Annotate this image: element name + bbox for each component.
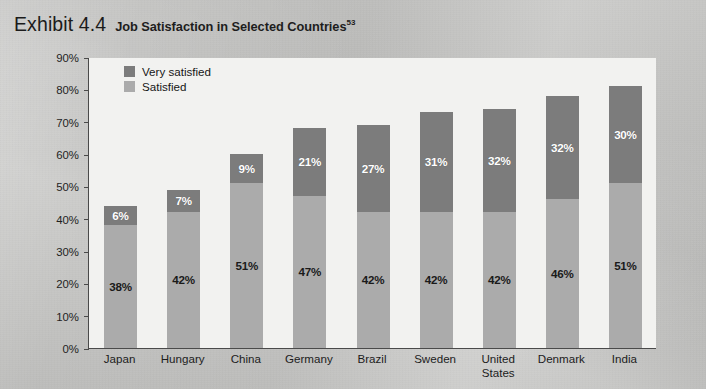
bar-value-label-very-satisfied: 7% bbox=[175, 195, 191, 207]
y-axis-tick-label: 50% bbox=[52, 181, 84, 193]
footnote-marker: 53 bbox=[347, 18, 356, 27]
y-axis-tick: 70% bbox=[52, 117, 89, 129]
bar-segment-very-satisfied[interactable]: 9% bbox=[230, 154, 263, 183]
bar-segment-satisfied[interactable]: 51% bbox=[609, 183, 642, 348]
chart-plot-frame: Very satisfied Satisfied 90%80%70%60%50%… bbox=[88, 58, 656, 349]
bar-segment-very-satisfied[interactable]: 32% bbox=[546, 96, 579, 199]
exhibit-title-text: Job Satisfaction in Selected Countries53 bbox=[115, 17, 355, 35]
y-axis-tick: 80% bbox=[52, 84, 89, 96]
bar-segment-very-satisfied[interactable]: 21% bbox=[293, 128, 326, 196]
y-axis-tick: 90% bbox=[52, 52, 89, 64]
bar-value-label-very-satisfied: 9% bbox=[239, 163, 255, 175]
bar-segment-satisfied[interactable]: 42% bbox=[420, 212, 453, 348]
x-axis-category-label: Germany bbox=[277, 352, 340, 366]
y-axis-tick: 60% bbox=[52, 149, 89, 161]
x-axis-category-label: India bbox=[593, 352, 656, 366]
bar-value-label-very-satisfied: 32% bbox=[551, 142, 574, 154]
bar-stack[interactable]: 7%42% bbox=[167, 190, 200, 348]
bar-value-label-satisfied: 47% bbox=[299, 266, 322, 278]
bar-value-label-very-satisfied: 27% bbox=[362, 163, 385, 175]
x-axis-category-label: United States bbox=[467, 352, 530, 379]
y-axis-tick: 0% bbox=[52, 343, 89, 355]
bar-segment-very-satisfied[interactable]: 7% bbox=[167, 190, 200, 213]
bar-stack[interactable]: 27%42% bbox=[357, 125, 390, 348]
bar-segment-very-satisfied[interactable]: 32% bbox=[483, 109, 516, 212]
y-axis-tick: 30% bbox=[52, 246, 89, 258]
y-axis-tick-label: 60% bbox=[52, 149, 84, 161]
bar-stack[interactable]: 9%51% bbox=[230, 154, 263, 348]
y-axis-tick-label: 20% bbox=[52, 278, 84, 290]
bar-value-label-satisfied: 38% bbox=[109, 281, 132, 293]
y-axis-tick-label: 10% bbox=[52, 311, 84, 323]
bar-segment-very-satisfied[interactable]: 30% bbox=[609, 86, 642, 183]
x-axis-category-label: China bbox=[214, 352, 277, 366]
bar-value-label-satisfied: 42% bbox=[362, 274, 385, 286]
bar-value-label-very-satisfied: 32% bbox=[488, 155, 511, 167]
exhibit-number: Exhibit 4.4 bbox=[14, 13, 106, 36]
bar-value-label-very-satisfied: 6% bbox=[112, 210, 128, 222]
x-axis-category-label: Sweden bbox=[404, 352, 467, 366]
y-axis-tick-label: 0% bbox=[52, 343, 84, 355]
bar-segment-satisfied[interactable]: 42% bbox=[357, 212, 390, 348]
page-title: Job Satisfaction in Selected Countries bbox=[115, 19, 346, 34]
y-axis-tick: 40% bbox=[52, 214, 89, 226]
bar-value-label-satisfied: 42% bbox=[488, 274, 511, 286]
bars-container: 6%38%7%42%9%51%21%47%27%42%31%42%32%42%3… bbox=[89, 58, 656, 348]
x-axis-category-label: Japan bbox=[88, 352, 151, 366]
y-axis-tick-mark bbox=[84, 349, 89, 350]
bar-stack[interactable]: 21%47% bbox=[293, 128, 326, 348]
y-axis-tick-label: 40% bbox=[52, 214, 84, 226]
bar-segment-very-satisfied[interactable]: 27% bbox=[357, 125, 390, 212]
bar-segment-satisfied[interactable]: 42% bbox=[167, 212, 200, 348]
x-axis-category-label: Hungary bbox=[151, 352, 214, 366]
y-axis-tick: 50% bbox=[52, 181, 89, 193]
x-axis-category-label: Brazil bbox=[340, 352, 403, 366]
bar-segment-satisfied[interactable]: 42% bbox=[483, 212, 516, 348]
bar-segment-satisfied[interactable]: 38% bbox=[104, 225, 137, 348]
y-axis-tick-label: 70% bbox=[52, 117, 84, 129]
bar-value-label-very-satisfied: 30% bbox=[614, 129, 637, 141]
bar-stack[interactable]: 31%42% bbox=[420, 112, 453, 348]
bar-stack[interactable]: 32%46% bbox=[546, 96, 579, 348]
x-axis-category-label: Denmark bbox=[530, 352, 593, 366]
bar-value-label-satisfied: 46% bbox=[551, 268, 574, 280]
y-axis-tick-label: 80% bbox=[52, 84, 84, 96]
bar-stack[interactable]: 6%38% bbox=[104, 206, 137, 348]
bar-value-label-very-satisfied: 31% bbox=[425, 156, 448, 168]
y-axis-tick: 20% bbox=[52, 278, 89, 290]
y-axis-tick-label: 30% bbox=[52, 246, 84, 258]
bar-value-label-very-satisfied: 21% bbox=[299, 156, 322, 168]
bar-value-label-satisfied: 51% bbox=[614, 260, 637, 272]
bar-stack[interactable]: 32%42% bbox=[483, 109, 516, 348]
bar-value-label-satisfied: 42% bbox=[172, 274, 195, 286]
exhibit-title: Exhibit 4.4 Job Satisfaction in Selected… bbox=[14, 13, 355, 36]
bar-segment-satisfied[interactable]: 51% bbox=[230, 183, 263, 348]
bar-stack[interactable]: 30%51% bbox=[609, 86, 642, 348]
bar-value-label-satisfied: 51% bbox=[235, 260, 258, 272]
bar-value-label-satisfied: 42% bbox=[425, 274, 448, 286]
y-axis-tick: 10% bbox=[52, 311, 89, 323]
bar-segment-very-satisfied[interactable]: 31% bbox=[420, 112, 453, 212]
y-axis-tick-label: 90% bbox=[52, 52, 84, 64]
bar-segment-very-satisfied[interactable]: 6% bbox=[104, 206, 137, 225]
bar-segment-satisfied[interactable]: 46% bbox=[546, 199, 579, 348]
x-axis-labels: JapanHungaryChinaGermanyBrazilSwedenUnit… bbox=[88, 352, 656, 388]
bar-segment-satisfied[interactable]: 47% bbox=[293, 196, 326, 348]
